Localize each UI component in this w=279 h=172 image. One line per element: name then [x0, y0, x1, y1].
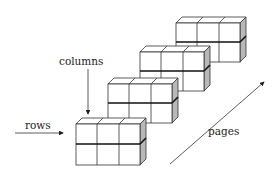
page-1-block [76, 118, 146, 165]
rows-label: rows [25, 119, 51, 131]
multidimensional-array-diagram: columns rows pages [0, 0, 279, 172]
columns-label: columns [59, 55, 103, 67]
page-2-block [108, 78, 178, 123]
pages-label: pages [208, 125, 239, 137]
pages-arrow [170, 82, 264, 164]
